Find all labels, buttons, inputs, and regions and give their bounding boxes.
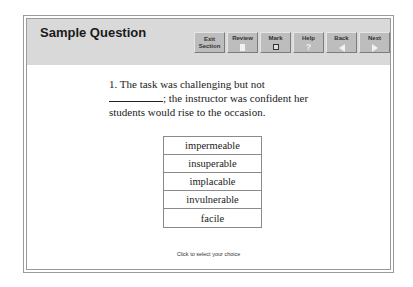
help-label: Help (302, 35, 315, 42)
mark-button[interactable]: Mark (260, 32, 291, 53)
exit-section-button[interactable]: Exit Section (194, 32, 225, 53)
panel-header: Sample Question Exit Section Review Mark… (27, 19, 390, 65)
help-button[interactable]: Help ? (293, 32, 324, 53)
instruction-hint: Click to select your choice (27, 251, 390, 257)
question-mark-icon: ? (306, 43, 312, 51)
choice-invulnerable[interactable]: invulnerable (164, 191, 261, 209)
mark-label: Mark (268, 35, 282, 42)
answer-choices: impermeable insuperable implacable invul… (163, 136, 262, 228)
exit-section-label-line1: Exit (204, 36, 215, 43)
question-number: 1. (109, 78, 117, 90)
question-text-before-blank: The task was challenging but not (120, 78, 265, 90)
review-label: Review (232, 35, 253, 42)
next-button[interactable]: Next (359, 32, 390, 53)
choice-facile[interactable]: facile (164, 209, 261, 227)
toolbar: Exit Section Review Mark Help ? Back (194, 32, 390, 53)
right-arrow-icon (372, 44, 378, 52)
back-button[interactable]: Back (326, 32, 357, 53)
question-panel: Sample Question Exit Section Review Mark… (26, 18, 391, 270)
question-text: 1. The task was challenging but not ; th… (109, 77, 309, 119)
left-arrow-icon (339, 44, 345, 52)
review-button[interactable]: Review (227, 32, 258, 53)
answer-blank (109, 92, 163, 102)
choice-insuperable[interactable]: insuperable (164, 155, 261, 173)
back-label: Back (334, 35, 348, 42)
checkbox-icon (273, 44, 279, 50)
page-title: Sample Question (40, 25, 146, 40)
choice-impermeable[interactable]: impermeable (164, 137, 261, 155)
question-text-after-blank: ; (163, 92, 166, 104)
exit-section-label-line2: Section (199, 43, 221, 50)
next-label: Next (368, 35, 381, 42)
choice-implacable[interactable]: implacable (164, 173, 261, 191)
question-panel-outer: Sample Question Exit Section Review Mark… (23, 15, 394, 273)
document-icon (240, 44, 245, 51)
